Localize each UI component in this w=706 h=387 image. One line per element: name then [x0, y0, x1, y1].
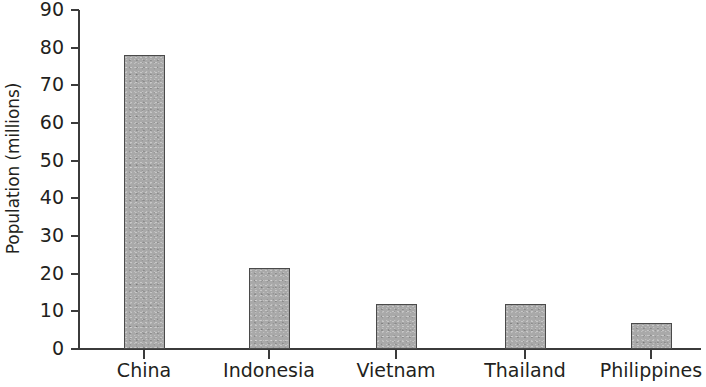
y-axis-tick-label: 60: [0, 113, 64, 132]
y-axis-tick-label-text: 20: [4, 264, 64, 283]
y-axis-tick: [71, 160, 79, 162]
y-axis-tick: [71, 9, 79, 11]
x-axis-tick-label: Indonesia: [223, 358, 315, 382]
y-axis-tick: [71, 235, 79, 237]
bar: [249, 268, 290, 349]
bar: [376, 304, 417, 349]
y-axis-line: [78, 10, 80, 350]
y-axis-tick: [71, 310, 79, 312]
y-axis-tick-label: 50: [0, 151, 64, 170]
x-axis-tick-label: China: [117, 358, 171, 382]
y-axis-tick-label-text: 90: [4, 0, 64, 19]
y-axis-tick-label-text: 70: [4, 75, 64, 94]
y-axis-tick-label-text: 30: [4, 226, 64, 245]
x-axis-tick-label: Vietnam: [356, 358, 435, 382]
y-axis-tick-label-text: 10: [4, 301, 64, 320]
y-axis-tick: [71, 348, 79, 350]
y-axis-tick: [71, 197, 79, 199]
bar: [631, 323, 672, 349]
y-axis-tick: [71, 273, 79, 275]
y-axis-tick-label: 20: [0, 264, 64, 283]
y-axis-tick: [71, 47, 79, 49]
y-axis-tick-label: 0: [0, 339, 64, 358]
y-axis-tick-label-text: 80: [4, 38, 64, 57]
y-axis-tick-label-text: 40: [4, 188, 64, 207]
bar: [505, 304, 546, 349]
y-axis-tick-label-text: 50: [4, 151, 64, 170]
y-axis-tick-label: 70: [0, 75, 64, 94]
y-axis-tick-label-text: 0: [4, 339, 64, 358]
y-axis-tick-label: 10: [0, 301, 64, 320]
y-axis-tick-label: 30: [0, 226, 64, 245]
x-axis-tick-label: Philippines: [600, 358, 702, 382]
y-axis-tick-label: 80: [0, 38, 64, 57]
y-axis-tick-label-text: 60: [4, 113, 64, 132]
y-axis-tick: [71, 122, 79, 124]
bar: [124, 55, 165, 349]
y-axis-tick: [71, 84, 79, 86]
bar-chart: Population (millions) 908070605040302010…: [0, 0, 706, 387]
x-axis-tick-label: Thailand: [484, 358, 566, 382]
y-axis-tick-label: 40: [0, 188, 64, 207]
y-axis-tick-label: 90: [0, 0, 64, 19]
